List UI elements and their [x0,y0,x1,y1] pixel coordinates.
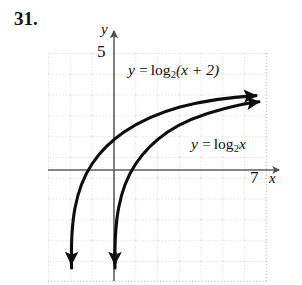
curve-label-log-op: log [214,135,234,152]
curve-label-equals: = [135,61,151,78]
figure-page: 31. y x 5 7 [0,0,302,285]
curve-label-equals: = [198,135,214,152]
y-axis-label: y [101,22,108,37]
curve-label-argument: x [239,135,246,152]
y-axis-tick-label-5: 5 [97,43,106,60]
x-axis-tick-label-7: 7 [250,169,259,186]
curve-label-log2-x: y=log2x [191,136,246,155]
curve-label-lhs-y: y [128,61,135,78]
logarithm-graph-figure [0,0,302,285]
curve-label-log-op: log [151,61,171,78]
curve-label-argument: (x + 2) [176,61,219,78]
x-axis-label: x [269,171,276,186]
curve-label-lhs-y: y [191,135,198,152]
curve-label-log2-x-plus-2: y=log2(x + 2) [128,62,219,81]
grid-lines [48,53,267,282]
